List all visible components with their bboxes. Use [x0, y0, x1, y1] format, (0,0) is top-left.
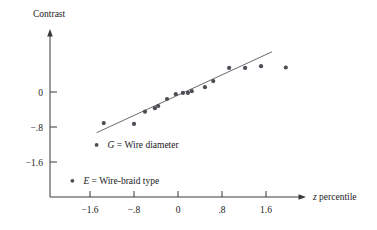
data-point: [143, 110, 147, 114]
data-point: [156, 104, 160, 108]
legend-label-g: G = Wire diameter: [108, 140, 180, 150]
data-point: [243, 66, 247, 70]
data-points-group: [102, 64, 288, 126]
data-point: [181, 91, 185, 95]
legend-marker-e-icon: [71, 179, 75, 183]
data-point: [227, 66, 231, 70]
legend-item-e: E = Wire-braid type: [71, 176, 160, 186]
data-point: [190, 89, 194, 93]
x-ticklabel-16: 1.6: [260, 205, 272, 215]
x-axis-arrow-icon: [299, 194, 307, 200]
data-point: [132, 122, 136, 126]
y-axis-group: 0 −.8 −1.6 Contrast: [26, 9, 66, 197]
x-ticklabel-0: 0: [176, 205, 181, 215]
y-ticklabel-neg08: −.8: [31, 123, 44, 133]
x-ticklabel-neg08: −.8: [128, 205, 141, 215]
y-ticklabel-neg16: −1.6: [26, 158, 43, 168]
legend-desc-g: Wire diameter: [124, 140, 179, 150]
data-point: [203, 85, 207, 89]
legend-desc-e: Wire-braid type: [99, 176, 159, 186]
legend-sep-g: =: [114, 140, 124, 150]
x-ticklabel-08: .8: [218, 205, 225, 215]
y-axis-title: Contrast: [33, 9, 66, 19]
normal-probability-plot: 0 −.8 −1.6 Contrast −1.6 −.8 0 .8 1.6 z …: [0, 0, 377, 230]
data-point: [186, 91, 190, 95]
data-point: [211, 79, 215, 83]
chart-canvas: 0 −.8 −1.6 Contrast −1.6 −.8 0 .8 1.6 z …: [0, 0, 377, 230]
data-point: [174, 92, 178, 96]
data-point: [102, 121, 106, 125]
legend-marker-g-icon: [95, 143, 99, 147]
data-point: [259, 64, 263, 68]
legend-label-e: E = Wire-braid type: [82, 176, 159, 186]
y-axis-arrow-icon: [47, 29, 53, 37]
y-ticklabel-0: 0: [38, 88, 43, 98]
x-axis-group: −1.6 −.8 0 .8 1.6 z percentile: [50, 191, 357, 215]
data-point: [284, 65, 288, 69]
legend-item-g: G = Wire diameter: [95, 140, 180, 150]
data-point: [165, 97, 169, 101]
x-ticklabel-neg16: −1.6: [81, 205, 98, 215]
x-axis-title: z percentile: [312, 192, 357, 202]
legend-sep-e: =: [89, 176, 99, 186]
x-axis-title-rest: percentile: [317, 192, 357, 202]
